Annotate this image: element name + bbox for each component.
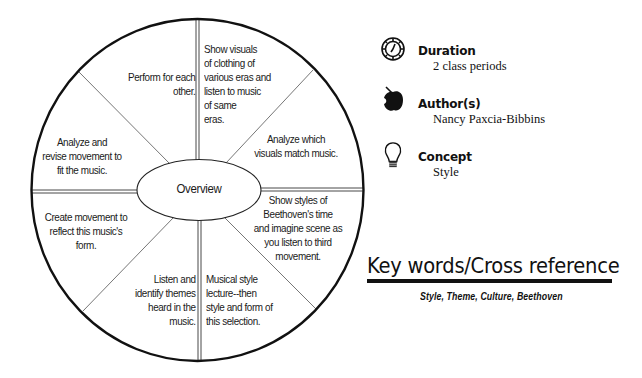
concept-value: Style <box>433 165 459 180</box>
apple-icon <box>380 85 406 113</box>
segment-musical-lecture: Musical style lecture--then style and fo… <box>206 272 273 328</box>
clock-badge-icon <box>380 35 406 63</box>
concept-title: Concept <box>418 150 472 164</box>
lightbulb-icon <box>380 141 406 169</box>
duration-value: 2 class periods <box>433 59 507 74</box>
keywords-heading: Key words/Cross reference <box>367 254 619 278</box>
segment-listen-themes: Listen and identify themes heard in the … <box>135 272 196 328</box>
segment-perform: Perform for each other. <box>128 70 195 98</box>
keywords-list: Style, Theme, Culture, Beethoven <box>420 291 563 302</box>
segment-analyze-visuals: Analyze which visuals match music. <box>244 132 347 160</box>
authors-title: Author(s) <box>418 97 481 111</box>
authors-value: Nancy Paxcia-Bibbins <box>433 112 545 127</box>
segment-beethoven-styles: Show styles of Beethoven's time and imag… <box>246 193 349 263</box>
segment-analyze-revise: Analyze and revise movement to fit the m… <box>30 135 133 177</box>
overview-label: Overview <box>144 181 253 196</box>
segment-create-movement: Create movement to reflect this music's … <box>34 210 137 252</box>
segment-show-visuals: Show visuals of clothing of various eras… <box>204 42 271 126</box>
keywords-underline <box>367 279 612 283</box>
duration-title: Duration <box>418 44 476 58</box>
